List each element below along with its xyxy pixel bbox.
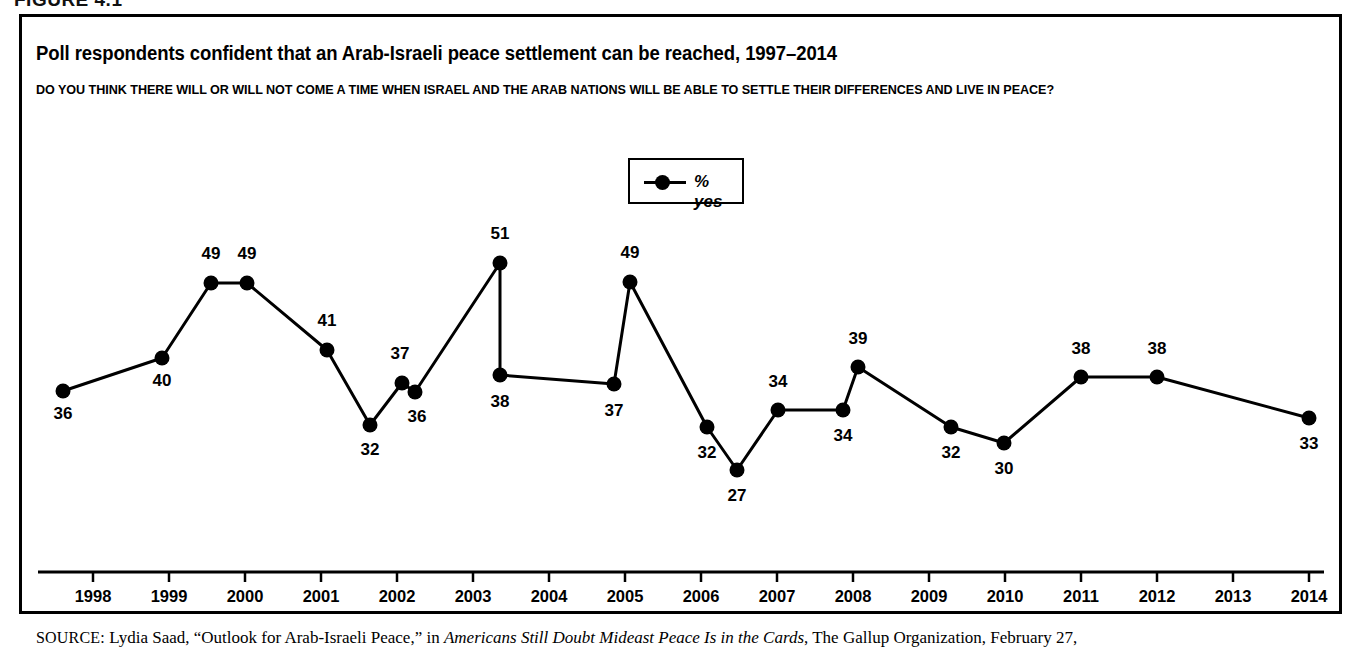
data-point-value-label: 38 xyxy=(491,393,510,410)
data-point-value-label: 49 xyxy=(238,245,257,262)
x-axis-tick-label: 2011 xyxy=(1063,588,1099,605)
data-point-value-label: 32 xyxy=(361,441,380,458)
x-axis-tick-label: 2001 xyxy=(303,588,340,605)
figure-frame xyxy=(19,14,1342,614)
legend-marker-dot-icon xyxy=(655,175,670,190)
data-point-value-label: 38 xyxy=(1148,340,1167,357)
data-point-value-label: 30 xyxy=(995,460,1014,477)
chart-title: Poll respondents confident that an Arab-… xyxy=(36,42,837,65)
source-text-before: Lydia Saad, “Outlook for Arab-Israeli Pe… xyxy=(105,628,444,647)
data-point-value-label: 33 xyxy=(1300,435,1319,452)
data-point-value-label: 41 xyxy=(318,312,337,329)
figure-caption: FIGURE 4.1 xyxy=(14,0,122,11)
data-point-value-label: 32 xyxy=(698,444,717,461)
x-axis-tick-label: 2000 xyxy=(227,588,264,605)
x-axis-tick-label: 2009 xyxy=(911,588,948,605)
x-axis-tick-label: 2007 xyxy=(759,588,796,605)
x-axis-tick-label: 2008 xyxy=(835,588,872,605)
source-italic-title: Americans Still Doubt Mideast Peace Is i… xyxy=(444,628,804,647)
chart-legend: % yes xyxy=(628,158,744,204)
x-axis-tick-label: 1998 xyxy=(75,588,112,605)
source-text-after: , The Gallup Organization, February 27, xyxy=(804,628,1077,647)
x-axis-tick-label: 2014 xyxy=(1291,588,1328,605)
legend-series-label: % yes xyxy=(694,172,742,212)
data-point-value-label: 51 xyxy=(491,225,510,242)
source-note: SOURCE: Lydia Saad, “Outlook for Arab-Is… xyxy=(36,628,1077,648)
data-point-value-label: 36 xyxy=(54,405,73,422)
x-axis-tick-label: 2013 xyxy=(1215,588,1252,605)
data-point-value-label: 27 xyxy=(728,487,747,504)
x-axis-tick-label: 2003 xyxy=(455,588,492,605)
data-point-value-label: 39 xyxy=(849,330,868,347)
data-point-value-label: 36 xyxy=(408,408,427,425)
data-point-value-label: 38 xyxy=(1072,340,1091,357)
data-point-value-label: 32 xyxy=(942,444,961,461)
data-point-value-label: 37 xyxy=(605,402,624,419)
source-label: SOURCE: xyxy=(36,629,105,646)
x-axis-tick-label: 2012 xyxy=(1139,588,1176,605)
x-axis-tick-label: 2010 xyxy=(987,588,1024,605)
data-point-value-label: 49 xyxy=(621,244,640,261)
x-axis-tick-label: 1999 xyxy=(151,588,188,605)
x-axis-tick-label: 2004 xyxy=(531,588,568,605)
x-axis-tick-label: 2002 xyxy=(379,588,416,605)
chart-question-subtitle: DO YOU THINK THERE WILL OR WILL NOT COME… xyxy=(36,82,1054,97)
data-point-value-label: 40 xyxy=(153,372,172,389)
data-point-value-label: 49 xyxy=(202,245,221,262)
x-axis-tick-label: 2005 xyxy=(607,588,644,605)
x-axis-tick-label: 2006 xyxy=(683,588,720,605)
data-point-value-label: 37 xyxy=(391,345,410,362)
data-point-value-label: 34 xyxy=(834,427,853,444)
data-point-value-label: 34 xyxy=(769,373,788,390)
